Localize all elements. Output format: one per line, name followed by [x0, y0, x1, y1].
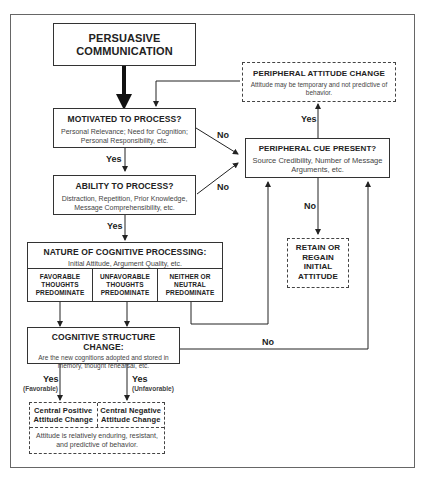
favorable-thoughts-cell: FAVORABLE THOUGHTS PREDOMINATE [28, 269, 93, 302]
motivated-no-label: No [217, 130, 229, 140]
unfavorable-label: (Unfavorable) [132, 385, 174, 392]
persuasive-communication-node: PERSUASIVE COMMUNICATION [53, 23, 196, 66]
motivated-to-process-node: MOTIVATED TO PROCESS? Personal Relevance… [53, 108, 196, 148]
ability-no-label: No [217, 182, 229, 192]
unfavorable-yes-label: Yes [132, 374, 148, 384]
peripheral-cue-present-node: PERIPHERAL CUE PRESENT? Source Credibili… [245, 138, 390, 178]
retain-initial-attitude-node: RETAIN OR REGAIN INITIAL ATTITUDE [287, 238, 349, 288]
ability-to-process-node: ABILITY TO PROCESS? Distraction, Repetit… [53, 175, 196, 215]
peripheral-attitude-change-node: PERIPHERAL ATTITUDE CHANGE Attitude may … [242, 62, 396, 102]
unfavorable-thoughts-cell: UNFAVORABLE THOUGHTS PREDOMINATE [93, 269, 158, 302]
favorable-label: (Favorable) [23, 385, 58, 392]
nature-of-cognitive-processing-node: NATURE OF COGNITIVE PROCESSING: Initial … [27, 242, 223, 302]
neither-neutral-cell: NEITHER OR NEUTRAL PREDOMINATE [158, 269, 222, 302]
cognitive-structure-change-node: COGNITIVE STRUCTURE CHANGE: Are the new … [27, 327, 180, 364]
cue-no-label: No [304, 201, 316, 211]
central-negative-change: Central Negative Attitude Change [98, 403, 165, 427]
favorable-yes-label: Yes [43, 374, 59, 384]
central-attitude-change-node: Central Positive Attitude Change Central… [29, 402, 165, 454]
central-positive-change: Central Positive Attitude Change [30, 403, 98, 427]
cue-yes-label: Yes [301, 114, 317, 124]
cognitive-no-label: No [262, 337, 274, 347]
motivated-yes-label: Yes [106, 154, 122, 164]
ability-yes-label: Yes [107, 221, 123, 231]
